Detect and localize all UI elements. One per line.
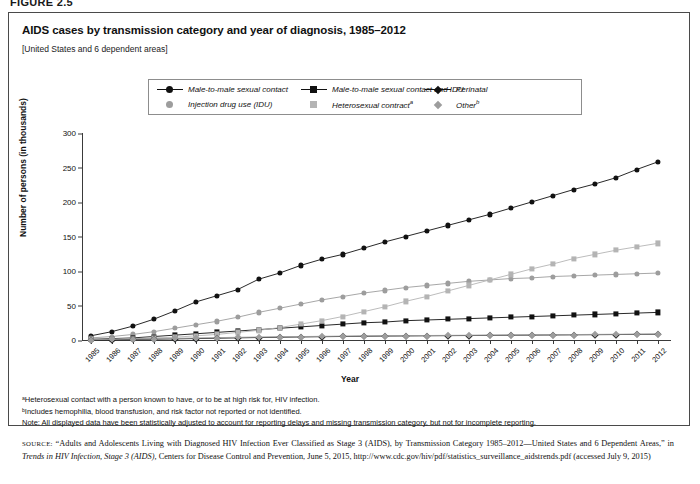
x-axis-tick: [595, 340, 596, 344]
data-point: [634, 310, 639, 315]
data-point: [319, 318, 324, 323]
data-point: [529, 266, 534, 271]
data-point: [487, 315, 492, 320]
legend-label: Otherb: [456, 99, 479, 110]
data-point: [424, 317, 429, 322]
x-axis-tick: [364, 340, 365, 344]
data-point: [361, 309, 366, 314]
data-point: [529, 314, 534, 319]
x-axis-tick: [490, 340, 491, 344]
square-marker-icon: [301, 84, 327, 94]
x-axis-tick: [553, 340, 554, 344]
x-axis-tick: [511, 340, 512, 344]
x-axis-tick: [616, 340, 617, 344]
source-text-2: Centers for Disease Control and Preventi…: [157, 452, 651, 461]
data-point: [466, 283, 471, 288]
circle-marker-icon: [157, 84, 183, 94]
footnote-note: Note: All displayed data have been stati…: [22, 417, 672, 429]
diamond-marker-icon: [425, 99, 451, 109]
footnote-a: ᵃHeterosexual contact with a person know…: [22, 394, 672, 406]
circle-marker-icon: [157, 99, 183, 109]
x-axis-tick: [406, 340, 407, 344]
data-point: [487, 277, 492, 282]
figure-subtitle: [United States and 6 dependent areas]: [22, 44, 168, 54]
footnote-b: ᵇIncludes hemophilia, blood transfusion,…: [22, 406, 672, 418]
legend-item: Heterosexual contracta: [301, 99, 413, 110]
data-point: [634, 244, 639, 249]
data-point: [655, 241, 660, 246]
data-point: [256, 328, 261, 333]
legend-item: Injection drug use (IDU): [157, 99, 272, 109]
legend-label: Male-to-male sexual contact: [188, 85, 288, 94]
legend-label: Perinatal: [456, 85, 488, 94]
x-axis-tick: [343, 340, 344, 344]
data-point: [382, 304, 387, 309]
data-point: [340, 322, 345, 327]
data-point: [382, 319, 387, 324]
x-axis-tick: [448, 340, 449, 344]
legend-item: Male-to-male sexual contact: [157, 84, 288, 94]
data-point: [361, 320, 366, 325]
square-marker-icon: [301, 99, 327, 109]
x-axis-title: Year: [0, 374, 700, 384]
x-axis-tick: [385, 340, 386, 344]
y-axis-tick-label: 0: [36, 336, 82, 345]
data-point: [550, 262, 555, 267]
series-lines: [82, 133, 670, 340]
data-point: [508, 315, 513, 320]
page-title: AIDS cases by transmission category and …: [22, 24, 406, 36]
x-axis-tick: [574, 340, 575, 344]
data-point: [592, 312, 597, 317]
data-point: [424, 294, 429, 299]
source-note: SOURCE: “Adults and Adolescents Living w…: [22, 438, 674, 463]
data-point: [466, 316, 471, 321]
x-axis-tick: [469, 340, 470, 344]
legend-label: Heterosexual contracta: [332, 99, 413, 110]
data-point: [571, 256, 576, 261]
data-point: [508, 272, 513, 277]
x-axis-tick: [637, 340, 638, 344]
data-point: [277, 325, 282, 330]
y-axis-tick-label: 250: [36, 163, 82, 172]
source-italic: Trends in HIV Infection, Stage 3 (AIDS),: [22, 452, 157, 461]
y-axis-tick-label: 100: [36, 267, 82, 276]
figure-number: FIGURE 2.5: [10, 0, 73, 8]
data-point: [403, 318, 408, 323]
data-point: [592, 252, 597, 257]
x-axis-tick: [532, 340, 533, 344]
data-point: [550, 313, 555, 318]
legend-item: Perinatal: [425, 84, 488, 94]
diamond-marker-icon: [425, 84, 451, 94]
data-point: [403, 299, 408, 304]
x-axis-tick: [427, 340, 428, 344]
data-point: [571, 313, 576, 318]
data-point: [298, 322, 303, 327]
x-axis-line: [82, 340, 671, 341]
source-text-1: “Adults and Adolescents Living with Diag…: [56, 439, 674, 448]
y-axis-tick-label: 200: [36, 198, 82, 207]
data-point: [655, 310, 660, 315]
data-point: [445, 317, 450, 322]
y-axis-tick-label: 50: [36, 301, 82, 310]
data-point: [445, 288, 450, 293]
footnotes: ᵃHeterosexual contact with a person know…: [22, 394, 672, 429]
data-point: [613, 311, 618, 316]
y-axis-tick-label: 300: [36, 129, 82, 138]
plot-area: 0501001502002503001985198619871988198919…: [82, 133, 670, 340]
y-axis-title: Number of persons (in thousands): [18, 98, 28, 237]
data-point: [340, 314, 345, 319]
chart-legend: Male-to-male sexual contactInjection dru…: [148, 79, 582, 115]
legend-label: Injection drug use (IDU): [188, 100, 272, 109]
data-point: [613, 248, 618, 253]
data-point: [319, 323, 324, 328]
legend-item: Otherb: [425, 99, 479, 110]
x-axis-tick: [658, 340, 659, 344]
y-axis-tick-label: 150: [36, 232, 82, 241]
source-label: SOURCE:: [22, 440, 53, 447]
figure-page: FIGURE 2.5 AIDS cases by transmission ca…: [0, 0, 700, 484]
